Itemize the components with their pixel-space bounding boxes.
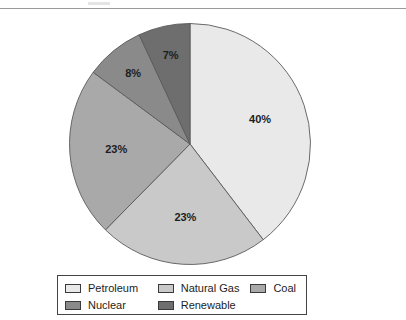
- legend-label-natural-gas: Natural Gas: [181, 282, 240, 294]
- chart-legend: Petroleum Natural Gas Coal Nuclear Renew…: [57, 275, 307, 315]
- pie-label-renewable: 7%: [163, 49, 179, 61]
- legend-row-1: Petroleum Natural Gas Coal: [58, 280, 306, 296]
- legend-label-nuclear: Nuclear: [88, 299, 126, 311]
- scan-artifact: [88, 2, 110, 5]
- pie-label-coal: 23%: [105, 143, 127, 155]
- pie-label-petroleum: 40%: [249, 113, 271, 125]
- pie-graphic: 40%23%23%8%7%: [68, 22, 312, 266]
- legend-item-petroleum[interactable]: Petroleum: [65, 280, 158, 296]
- pie-chart: 40%23%23%8%7%: [0, 14, 406, 276]
- legend-label-renewable: Renewable: [181, 299, 236, 311]
- legend-swatch-nuclear: [65, 301, 81, 310]
- legend-item-empty: [250, 297, 306, 313]
- legend-item-renewable[interactable]: Renewable: [158, 297, 251, 313]
- legend-swatch-natural-gas: [158, 284, 174, 293]
- legend-label-petroleum: Petroleum: [88, 282, 138, 294]
- legend-swatch-renewable: [158, 301, 174, 310]
- pie-label-nuclear: 8%: [125, 67, 141, 79]
- pie-label-natural-gas: 23%: [174, 211, 196, 223]
- legend-row-2: Nuclear Renewable: [58, 297, 306, 313]
- top-divider-rule: [0, 8, 406, 9]
- legend-swatch-coal: [250, 284, 266, 293]
- legend-swatch-petroleum: [65, 284, 81, 293]
- legend-item-nuclear[interactable]: Nuclear: [65, 297, 158, 313]
- legend-label-coal: Coal: [273, 282, 296, 294]
- page-canvas: 40%23%23%8%7% Petroleum Natural Gas Coal…: [0, 0, 406, 320]
- legend-item-natural-gas[interactable]: Natural Gas: [158, 280, 251, 296]
- pie-svg: 40%23%23%8%7%: [68, 22, 312, 266]
- legend-item-coal[interactable]: Coal: [250, 280, 306, 296]
